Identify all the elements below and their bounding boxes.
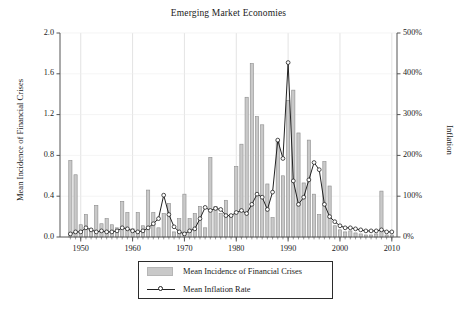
data-point-marker (385, 230, 389, 234)
bar (261, 125, 264, 237)
bar (333, 226, 336, 237)
data-point-marker (281, 157, 285, 161)
data-point-marker (84, 226, 88, 230)
data-point-marker (203, 206, 207, 210)
data-point-marker (276, 138, 280, 142)
data-point-marker (271, 190, 275, 194)
axis-spines (60, 33, 397, 237)
bar (245, 97, 248, 237)
data-point-marker (359, 228, 363, 232)
legend-label-bars: Mean Incidence of Financial Crises (183, 267, 302, 276)
axis-ticks (57, 33, 401, 242)
bar (354, 233, 357, 237)
bar (349, 231, 352, 237)
data-point-marker (105, 230, 109, 234)
bar (344, 232, 347, 237)
bar (328, 186, 331, 237)
data-point-marker (198, 217, 202, 221)
bar (105, 219, 108, 237)
data-point-marker (126, 227, 130, 231)
data-point-marker (177, 230, 181, 234)
data-point-marker (193, 227, 197, 231)
data-point-marker (110, 230, 114, 234)
data-point-marker (141, 229, 145, 233)
bar (240, 144, 243, 237)
bar (271, 218, 274, 237)
data-point-marker (229, 214, 233, 218)
data-point-marker (317, 168, 321, 172)
bar (74, 175, 77, 237)
legend-bar-swatch-icon (147, 267, 173, 276)
data-point-marker (208, 209, 212, 213)
data-point-marker (374, 229, 378, 233)
data-point-marker (136, 230, 140, 234)
legend-item-line: Mean Inflation Rate (139, 280, 332, 298)
data-point-marker (245, 212, 249, 216)
data-point-marker (183, 232, 187, 236)
bar (235, 167, 238, 237)
data-point-marker (214, 207, 218, 211)
bar (307, 140, 310, 237)
data-point-marker (364, 229, 368, 233)
data-point-marker (260, 195, 264, 199)
data-point-marker (157, 217, 161, 221)
bar (250, 64, 253, 237)
bar (229, 215, 232, 237)
data-point-marker (240, 209, 244, 213)
data-point-marker (348, 226, 352, 230)
data-point-marker (369, 229, 373, 233)
bar (193, 214, 196, 237)
data-point-marker (120, 226, 124, 230)
data-point-marker (100, 229, 104, 233)
data-point-marker (328, 215, 332, 219)
bar (255, 117, 258, 237)
bar (312, 194, 315, 237)
bar (69, 161, 72, 238)
bar (126, 213, 129, 237)
inflation-line (70, 63, 391, 234)
data-point-marker (224, 214, 228, 218)
data-point-marker (172, 225, 176, 229)
data-point-marker (343, 226, 347, 230)
bar (318, 215, 321, 237)
bar (214, 206, 217, 237)
data-point-marker (255, 192, 259, 196)
data-point-marker (354, 227, 358, 231)
bar (178, 219, 181, 237)
bar (297, 133, 300, 237)
data-point-marker (265, 208, 269, 212)
data-point-marker (312, 161, 316, 165)
legend-line-circle-icon (147, 285, 175, 294)
data-point-marker (297, 202, 301, 206)
data-point-marker (188, 229, 192, 233)
bar (338, 230, 341, 237)
bar (121, 201, 124, 237)
chart-legend: Mean Incidence of Financial Crises Mean … (138, 261, 333, 299)
data-point-marker (291, 179, 295, 183)
data-point-marker (333, 220, 337, 224)
data-point-marker (286, 61, 290, 65)
data-point-marker (302, 195, 306, 199)
data-point-marker (380, 228, 384, 232)
bar (162, 214, 165, 237)
data-point-marker (234, 211, 238, 215)
chart-figure: Emerging Market Economies Mean Incidence… (0, 0, 457, 317)
line-markers (68, 61, 393, 236)
legend-item-bars: Mean Incidence of Financial Crises (139, 262, 332, 280)
data-point-marker (146, 226, 150, 230)
data-point-marker (151, 222, 155, 226)
legend-label-line: Mean Inflation Rate (183, 285, 250, 294)
data-point-marker (115, 229, 119, 233)
bar (188, 219, 191, 237)
bar (204, 228, 207, 237)
bar (183, 194, 186, 237)
data-point-marker (162, 193, 166, 197)
data-point-marker (307, 178, 311, 182)
bar (281, 176, 284, 237)
data-point-marker (94, 230, 98, 234)
data-point-marker (250, 202, 254, 206)
bar (157, 228, 160, 237)
data-point-marker (131, 229, 135, 233)
data-point-marker (79, 230, 83, 234)
data-point-marker (338, 224, 342, 228)
